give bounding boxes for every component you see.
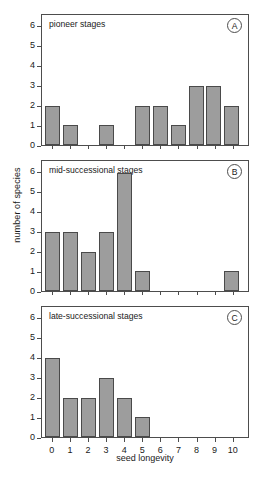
y-tick bbox=[37, 46, 41, 47]
x-tick bbox=[233, 146, 234, 149]
x-tick bbox=[160, 438, 161, 442]
y-tick bbox=[37, 66, 41, 67]
y-tick bbox=[37, 106, 41, 107]
x-tick bbox=[106, 292, 107, 295]
x-tick bbox=[233, 438, 234, 442]
x-tick bbox=[70, 438, 71, 442]
panel-b-plot: 0123456 bbox=[41, 160, 249, 292]
x-tick bbox=[88, 292, 89, 295]
bar bbox=[63, 398, 78, 437]
y-tick-label: 2 bbox=[23, 246, 35, 256]
y-tick-label: 3 bbox=[23, 226, 35, 236]
y-tick-label: 1 bbox=[23, 120, 35, 130]
x-tick bbox=[215, 146, 216, 149]
y-tick-label: 1 bbox=[23, 412, 35, 422]
y-tick bbox=[37, 292, 41, 293]
x-tick bbox=[124, 292, 125, 295]
y-tick-label: 1 bbox=[23, 266, 35, 276]
bar bbox=[81, 252, 96, 291]
bar bbox=[206, 86, 221, 145]
y-tick-label: 0 bbox=[23, 432, 35, 442]
panel-a-bars bbox=[42, 15, 248, 145]
x-tick bbox=[52, 146, 53, 149]
x-tick bbox=[124, 146, 125, 149]
y-tick-label: 5 bbox=[23, 332, 35, 342]
bar bbox=[224, 106, 239, 145]
y-tick-label: 4 bbox=[23, 206, 35, 216]
bar bbox=[117, 173, 132, 291]
bar bbox=[99, 125, 114, 145]
x-axis-title: seed longevity bbox=[41, 453, 249, 463]
x-tick bbox=[197, 292, 198, 295]
y-tick bbox=[37, 252, 41, 253]
y-tick-label: 4 bbox=[23, 60, 35, 70]
y-tick-label: 6 bbox=[23, 312, 35, 322]
x-tick bbox=[197, 438, 198, 442]
x-tick bbox=[160, 292, 161, 295]
bar bbox=[117, 398, 132, 437]
bar bbox=[135, 106, 150, 145]
x-tick bbox=[124, 438, 125, 442]
x-tick bbox=[142, 292, 143, 295]
y-tick-label: 0 bbox=[23, 140, 35, 150]
y-tick bbox=[37, 126, 41, 127]
y-tick-label: 2 bbox=[23, 100, 35, 110]
y-tick bbox=[37, 318, 41, 319]
y-tick-label: 5 bbox=[23, 186, 35, 196]
y-tick-label: 2 bbox=[23, 392, 35, 402]
y-tick bbox=[37, 232, 41, 233]
x-tick bbox=[70, 146, 71, 149]
x-tick bbox=[233, 292, 234, 295]
x-tick bbox=[70, 292, 71, 295]
y-tick bbox=[37, 338, 41, 339]
panel-c-bars bbox=[42, 307, 248, 437]
y-tick bbox=[37, 86, 41, 87]
x-tick bbox=[106, 146, 107, 149]
y-tick-label: 6 bbox=[23, 166, 35, 176]
panel-b-bars bbox=[42, 161, 248, 291]
panel-c: late-successional stages C 0123456012345… bbox=[41, 306, 249, 438]
y-tick-label: 0 bbox=[23, 286, 35, 296]
x-tick bbox=[142, 146, 143, 149]
bar bbox=[81, 398, 96, 437]
bar bbox=[153, 106, 168, 145]
y-tick-label: 3 bbox=[23, 80, 35, 90]
x-tick bbox=[88, 146, 89, 149]
y-tick bbox=[37, 192, 41, 193]
x-tick bbox=[215, 438, 216, 442]
bar bbox=[135, 417, 150, 437]
x-tick bbox=[197, 146, 198, 149]
figure-root: number of species pioneer stages A 01234… bbox=[0, 0, 263, 480]
y-tick-label: 4 bbox=[23, 352, 35, 362]
x-tick bbox=[178, 292, 179, 295]
y-tick-label: 6 bbox=[23, 20, 35, 30]
y-tick bbox=[37, 26, 41, 27]
bar bbox=[45, 106, 60, 145]
y-tick bbox=[37, 146, 41, 147]
y-tick bbox=[37, 172, 41, 173]
x-tick bbox=[52, 438, 53, 442]
y-tick bbox=[37, 438, 41, 439]
x-tick bbox=[106, 438, 107, 442]
y-tick bbox=[37, 418, 41, 419]
y-tick-label: 3 bbox=[23, 372, 35, 382]
bar bbox=[45, 232, 60, 291]
bar bbox=[224, 271, 239, 291]
y-tick bbox=[37, 398, 41, 399]
panel-b: mid-successional stages B 0123456 bbox=[41, 160, 249, 292]
y-tick-label: 5 bbox=[23, 40, 35, 50]
x-tick bbox=[52, 292, 53, 295]
y-tick bbox=[37, 358, 41, 359]
x-tick bbox=[88, 438, 89, 442]
bar bbox=[63, 232, 78, 291]
bar bbox=[171, 125, 186, 145]
bar bbox=[135, 271, 150, 291]
bar bbox=[63, 125, 78, 145]
bar bbox=[99, 232, 114, 291]
y-axis-title: number of species bbox=[12, 150, 22, 260]
x-tick bbox=[215, 292, 216, 295]
y-tick bbox=[37, 212, 41, 213]
panel-a-plot: 0123456 bbox=[41, 14, 249, 146]
x-tick bbox=[178, 438, 179, 442]
x-tick bbox=[160, 146, 161, 149]
